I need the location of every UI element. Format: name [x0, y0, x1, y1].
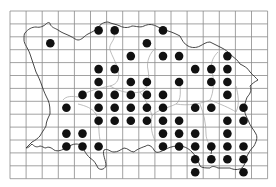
- occurrence-dot: [239, 142, 248, 151]
- occurrence-dot: [78, 142, 87, 151]
- occurrence-dot: [223, 116, 232, 125]
- occurrence-dot: [143, 91, 152, 100]
- occurrence-dot: [94, 116, 103, 125]
- occurrence-dot: [94, 104, 103, 113]
- occurrence-dot: [127, 91, 136, 100]
- occurrence-dot: [127, 52, 136, 61]
- occurrence-dot: [191, 129, 200, 138]
- occurrence-dot: [159, 116, 168, 125]
- occurrence-dot: [110, 91, 119, 100]
- occurrence-dot: [191, 168, 200, 177]
- occurrence-dot: [207, 78, 216, 87]
- occurrence-dot: [159, 91, 168, 100]
- occurrence-dot: [191, 104, 200, 113]
- occurrence-dot: [78, 129, 87, 138]
- occurrence-dot: [159, 52, 168, 61]
- occurrence-dot: [159, 26, 168, 35]
- occurrence-dot: [78, 91, 87, 100]
- occurrence-dot: [62, 142, 71, 151]
- occurrence-dot: [94, 65, 103, 74]
- occurrence-dot: [94, 91, 103, 100]
- distribution-map: [0, 0, 276, 187]
- occurrence-dot: [143, 39, 152, 48]
- occurrence-dot: [223, 52, 232, 61]
- coastline: [24, 22, 258, 170]
- occurrence-dot: [239, 104, 248, 113]
- occurrence-dot: [159, 129, 168, 138]
- occurrence-dot: [94, 78, 103, 87]
- occurrence-dot: [175, 142, 184, 151]
- occurrence-dot: [207, 104, 216, 113]
- occurrence-dot: [159, 104, 168, 113]
- occurrence-dot: [175, 78, 184, 87]
- occurrence-dot: [191, 65, 200, 74]
- occurrence-dot: [223, 129, 232, 138]
- occurrence-dot: [62, 104, 71, 113]
- occurrence-dot: [239, 116, 248, 125]
- occurrence-dot: [239, 155, 248, 164]
- occurrence-dot: [143, 78, 152, 87]
- occurrence-dot: [175, 116, 184, 125]
- occurrence-dot: [62, 129, 71, 138]
- occurrence-dot: [127, 78, 136, 87]
- occurrence-dot: [110, 116, 119, 125]
- occurrence-dot: [46, 39, 55, 48]
- occurrence-dot: [223, 78, 232, 87]
- occurrence-dot: [223, 155, 232, 164]
- occurrence-dot: [110, 104, 119, 113]
- occurrence-dot: [110, 26, 119, 35]
- occurrence-dot: [207, 155, 216, 164]
- occurrence-dot: [175, 52, 184, 61]
- occurrence-dot: [191, 142, 200, 151]
- occurrence-dot: [94, 142, 103, 151]
- occurrence-dot: [191, 155, 200, 164]
- occurrence-dot: [143, 116, 152, 125]
- occurrence-dot: [127, 116, 136, 125]
- occurrence-dot: [175, 129, 184, 138]
- occurrence-dot: [143, 104, 152, 113]
- parish-boundaries: [63, 34, 238, 150]
- occurrence-dot: [239, 168, 248, 177]
- occurrence-dot: [159, 142, 168, 151]
- occurrence-dot: [94, 26, 103, 35]
- occurrence-dot: [223, 142, 232, 151]
- occurrence-dot: [223, 91, 232, 100]
- occurrence-dot: [110, 65, 119, 74]
- occurrence-dot: [207, 65, 216, 74]
- occurrence-dot: [127, 104, 136, 113]
- occurrence-dot: [223, 65, 232, 74]
- occurrence-dot: [207, 142, 216, 151]
- map-caption: [12, 182, 262, 187]
